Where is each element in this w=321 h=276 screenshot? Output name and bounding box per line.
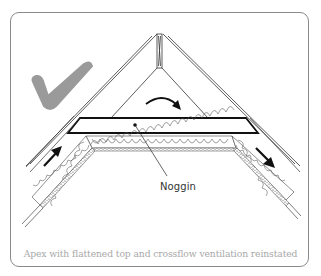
- ridge-board: [157, 34, 162, 68]
- figure-caption: Apex with flattened top and crossflow ve…: [0, 248, 321, 259]
- ceiling-lines: [22, 203, 301, 227]
- airflow-arrow-curved-icon: [146, 98, 181, 110]
- noggin-label: Noggin: [160, 181, 196, 192]
- check-mark-icon: [32, 62, 92, 109]
- rafter-inner-lines: [111, 68, 208, 118]
- airflow-arrow-up-left-icon: [44, 146, 62, 166]
- apex-diagram: [0, 0, 321, 276]
